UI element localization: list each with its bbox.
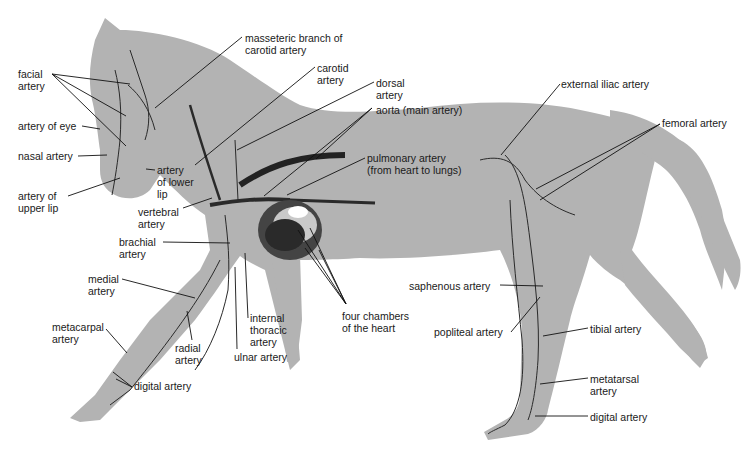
label-dorsal-artery: dorsal artery [376,77,405,101]
label-ulnar-artery: ulnar artery [234,351,287,363]
label-nasal-artery: nasal artery [18,150,73,162]
label-digital-artery-hind: digital artery [590,411,647,423]
label-carotid-artery: carotid artery [317,62,349,86]
label-digital-artery-fore: digital artery [134,380,191,392]
label-masseteric-branch: masseteric branch of carotid artery [245,32,342,56]
label-radial-artery: radial artery [175,342,202,366]
label-popliteal-artery: popliteal artery [434,326,503,338]
label-tibial-artery: tibial artery [590,323,641,335]
label-pulmonary-artery: pulmonary artery (from heart to lungs) [367,152,462,176]
label-metatarsal-artery: metatarsal artery [590,373,639,397]
label-femoral-artery: femoral artery [662,117,727,129]
label-vertebral-artery: vertebral artery [138,206,179,230]
label-medial-artery: medial artery [88,273,119,297]
label-brachial-artery: brachial artery [119,236,156,260]
label-artery-of-upper-lip: artery of upper lip [18,190,58,214]
heart [258,200,322,260]
label-facial-artery: facial artery [18,68,45,92]
label-internal-thoracic-artery: internal thoracic artery [250,312,287,348]
label-metacarpal-artery: metacarpal artery [52,321,104,345]
label-artery-of-lower-lip: artery of lower lip [157,164,194,200]
label-saphenous-artery: saphenous artery [409,280,490,292]
label-four-chambers: four chambers of the heart [342,310,409,334]
label-external-iliac-artery: external iliac artery [561,78,649,90]
label-artery-of-eye: artery of eye [18,120,76,132]
label-aorta: aorta (main artery) [376,104,462,116]
horse-artery-diagram: facial artery artery of eye nasal artery… [0,0,746,459]
